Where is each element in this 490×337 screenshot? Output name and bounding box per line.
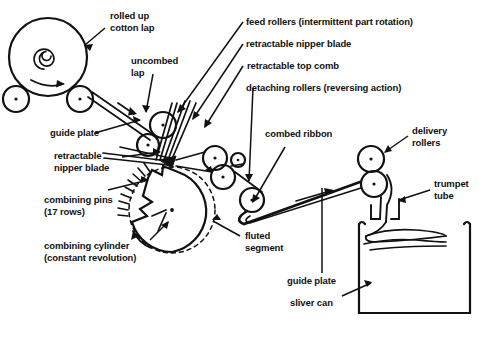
label-uncombed-lap: uncombed lap bbox=[131, 55, 178, 78]
label-retractable-top-comb: retractable top comb bbox=[247, 60, 339, 72]
label-guide-plate-left: guide plate bbox=[50, 127, 99, 139]
label-trumpet-tube: trumpet tube bbox=[434, 178, 469, 201]
retractable-nipper-blade bbox=[103, 147, 170, 165]
label-sliver-can: sliver can bbox=[290, 297, 333, 309]
web-travel-arrow bbox=[118, 103, 137, 116]
lap-roll-spiral bbox=[34, 49, 54, 69]
label-retractable-nipper-blade-left: retractable nipper blade bbox=[54, 150, 109, 173]
label-combing-pins: combining pins (17 rows) bbox=[44, 194, 113, 217]
rotation-arrow bbox=[31, 80, 65, 88]
coiled-sliver bbox=[364, 222, 446, 250]
label-guide-plate-bottom: guide plate bbox=[287, 275, 336, 287]
diagram-canvas: rolled up cotton lap uncombed lap feed r… bbox=[0, 0, 490, 337]
nipper-blade-bundle bbox=[156, 101, 196, 160]
label-detaching-rollers: detaching rollers (reversing action) bbox=[246, 82, 401, 94]
label-retractable-nipper-blade-top: retractable nipper blade bbox=[246, 38, 351, 50]
label-feed-rollers: feed rollers (intermittent part rotation… bbox=[246, 16, 413, 28]
label-delivery-rollers: delivery rollers bbox=[412, 125, 447, 148]
label-rolled-up-cotton-lap: rolled up cotton lap bbox=[110, 10, 154, 33]
trumpet-tube bbox=[371, 175, 399, 222]
sliver-can bbox=[359, 222, 470, 313]
label-fluted-segment: fluted segment bbox=[245, 230, 283, 253]
label-combing-cylinder: combining cylinder (constant revolution) bbox=[44, 240, 136, 263]
label-combed-ribbon: combed ribbon bbox=[265, 128, 332, 140]
lap-roll bbox=[9, 18, 87, 96]
